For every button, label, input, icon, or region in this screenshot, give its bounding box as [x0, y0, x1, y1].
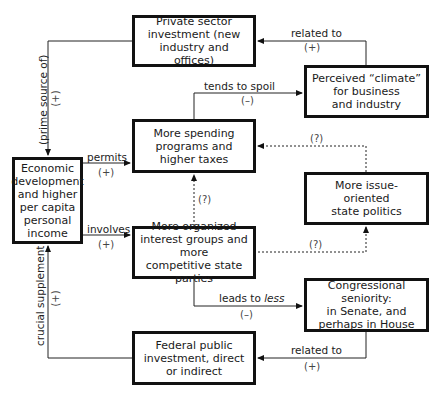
edge-private-to-economic: [48, 41, 132, 155]
node-spending-text: More spending programs and higher taxes: [153, 127, 234, 166]
node-seniority: Congressional seniority: in Senate, and …: [304, 278, 429, 332]
label-private-to-economic: (prime source of): [37, 59, 49, 145]
node-climate: Perceived “climate” for business and ind…: [304, 65, 429, 118]
node-federal: Federal public investment, direct or ind…: [132, 331, 256, 385]
label-economic-to-spending: permits: [87, 151, 127, 163]
node-private-investment: Private sector investment (new industry …: [132, 15, 256, 67]
node-climate-text: Perceived “climate” for business and ind…: [312, 72, 421, 111]
label-seniority-to-federal: related to: [291, 344, 342, 356]
sign-seniority-to-federal: (+): [304, 361, 320, 373]
node-seniority-text: Congressional seniority: in Senate, and …: [311, 279, 422, 331]
node-issue-politics: More issue- oriented state politics: [304, 172, 429, 225]
node-economic-text: Economic development and higher per capi…: [11, 162, 84, 240]
node-organized-groups: More organized interest groups and more …: [132, 226, 256, 279]
edge-federal-to-economic: [48, 246, 132, 358]
sign-issue-to-spending: (?): [310, 133, 323, 145]
sign-organized-to-issue: (?): [309, 239, 322, 251]
node-spending: More spending programs and higher taxes: [132, 119, 256, 173]
node-organized-groups-text: More organized interest groups and more …: [139, 220, 249, 285]
node-issue-politics-text: More issue- oriented state politics: [331, 179, 401, 218]
node-federal-text: Federal public investment, direct or ind…: [144, 339, 245, 378]
node-private-investment-text: Private sector investment (new industry …: [139, 15, 249, 67]
node-economic: Economic development and higher per capi…: [12, 157, 83, 244]
label-climate-to-private: related to: [291, 27, 342, 39]
label-organized-to-seniority-emph: less: [264, 292, 284, 304]
sign-economic-to-spending: (+): [98, 167, 114, 179]
sign-organized-to-seniority: (–): [240, 309, 253, 321]
label-spending-to-climate: tends to spoil: [204, 80, 275, 92]
sign-economic-to-organized: (+): [98, 239, 114, 251]
sign-private-to-economic: (+): [50, 89, 61, 109]
sign-organized-to-spending: (?): [198, 194, 211, 206]
label-economic-to-organized: involves: [87, 223, 130, 235]
sign-federal-to-economic: (+): [50, 289, 61, 309]
label-organized-to-seniority: leads to less: [219, 292, 285, 304]
edge-issue-to-spending: [258, 146, 366, 172]
label-organized-to-seniority-prefix: leads to: [219, 292, 264, 304]
label-federal-to-economic: crucial supplement: [34, 246, 46, 346]
sign-spending-to-climate: (–): [241, 95, 254, 107]
sign-climate-to-private: (+): [304, 42, 320, 54]
